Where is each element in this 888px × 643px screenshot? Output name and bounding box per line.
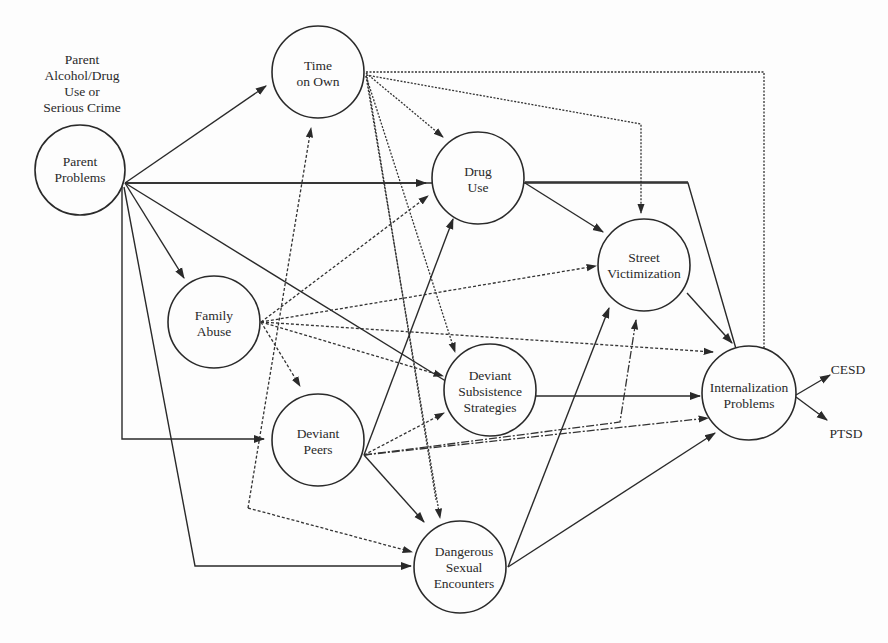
node-label: Sexual (446, 560, 483, 575)
edge-peers-to-drug (364, 219, 453, 455)
indicator-cesd: CESD (831, 362, 866, 377)
edge-parent-to-time (125, 86, 266, 183)
edge-time-to-internalization (366, 72, 764, 370)
edge-internalization-to-ptsd (796, 397, 827, 420)
path-diagram: Parent Alcohol/Drug Use or Serious Crime… (0, 0, 888, 643)
node-label: Parent (63, 154, 98, 169)
annotation-line: Use or (64, 84, 100, 99)
node-label: Use (468, 180, 489, 195)
node-label: Drug (464, 164, 492, 179)
node-label: Family (195, 308, 234, 323)
edge-family-to-peers (261, 322, 300, 386)
node-deviant-peers: Deviant Peers (272, 394, 364, 486)
node-drug-use: Drug Use (432, 132, 524, 224)
edge-peers-to-dangerous (364, 455, 424, 522)
edge-parent-to-subsistence (125, 183, 457, 388)
node-time-on-own: Time on Own (272, 26, 364, 118)
node-label: Internalization (710, 380, 789, 395)
edge-family-to-subsistence (261, 322, 443, 376)
edge-street-to-internalization (687, 293, 732, 343)
node-label: Time (304, 58, 332, 73)
node-parent-problems: Parent Problems (35, 125, 125, 215)
node-label: on Own (296, 74, 339, 89)
node-label: Problems (723, 396, 774, 411)
node-street-victimization: Street Victimization (598, 219, 690, 311)
edge-time-to-subsistence (366, 76, 455, 352)
edge-time-to-drug (366, 73, 443, 137)
node-label: Deviant (297, 426, 340, 441)
indicator-labels: CESD PTSD (829, 362, 865, 441)
edge-family-to-dangerous (248, 508, 412, 552)
node-label: Deviant (469, 368, 512, 383)
node-deviant-subsistence: Deviant Subsistence Strategies (444, 344, 536, 436)
edge-family-to-street (261, 266, 596, 322)
node-label: Subsistence (458, 384, 522, 399)
annotation-line: Serious Crime (43, 100, 121, 115)
node-family-abuse: Family Abuse (168, 276, 260, 368)
parent-annotation: Parent Alcohol/Drug Use or Serious Crime (43, 52, 121, 115)
node-label: Dangerous (435, 544, 493, 559)
node-label: Street (628, 250, 660, 265)
node-label: Victimization (607, 266, 681, 281)
node-label: Abuse (197, 324, 232, 339)
node-label: Strategies (463, 400, 516, 415)
edge-peers-to-subsistence (364, 413, 444, 455)
node-dangerous-sexual: Dangerous Sexual Encounters (414, 521, 506, 613)
edge-dangerous-to-internalization (508, 433, 715, 567)
edge-time-to-dangerous (366, 76, 440, 518)
edge-drug-to-street (525, 183, 603, 232)
node-label: Encounters (434, 576, 495, 591)
annotation-line: Alcohol/Drug (45, 68, 120, 83)
node-label: Problems (54, 170, 105, 185)
node-label: Peers (303, 442, 332, 457)
edge-parent-to-family (125, 183, 184, 278)
edge-parent-to-dangerous (124, 187, 411, 566)
indicator-ptsd: PTSD (829, 426, 862, 441)
node-internalization: Internalization Problems (702, 346, 796, 440)
annotation-line: Parent (65, 52, 100, 67)
edge-family-to-drug (261, 196, 428, 322)
edge-peers-to-internalization (364, 418, 708, 455)
edge-internalization-to-cesd (796, 375, 830, 395)
edge-time-to-dangerous-2 (367, 77, 436, 500)
